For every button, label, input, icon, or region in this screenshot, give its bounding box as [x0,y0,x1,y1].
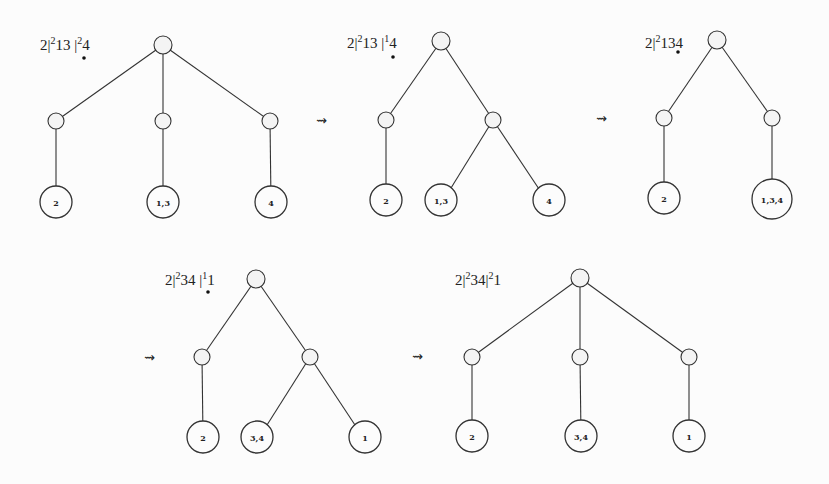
leaf-label: 1,3 [434,196,448,206]
tree-diagram: 2 1,3 4 2|213 |24 ⇝ 2 1,3 [0,0,829,484]
leaf-node: 1 [673,420,705,452]
inner-node [681,349,697,365]
inner-node [302,349,318,365]
tree-label: 2|2134 [645,33,684,51]
root-node [708,31,726,49]
root-node [154,36,172,54]
leaf-node: 1,3,4 [752,179,792,219]
tree-label: 2|213 |14 [347,33,397,51]
inner-node [485,112,501,128]
leaf-node: 1,3 [147,186,179,218]
inner-node [764,110,780,126]
diagram-canvas: 2 1,3 4 2|213 |24 ⇝ 2 1,3 [0,0,829,484]
tree-2: 2 1,3 4 2|213 |14 [347,32,565,216]
inner-node [194,349,210,365]
inner-node [572,349,588,365]
tree-4: 2 3,4 1 2|234 |11 [165,270,381,453]
leaf-label: 4 [546,196,552,206]
leaf-label: 1 [362,433,368,443]
leaf-label: 3,4 [250,433,264,443]
leaf-node: 2 [40,186,72,218]
leaf-node: 2 [187,421,219,453]
leaf-node: 1,3 [425,184,457,216]
leaf-label: 2 [53,198,59,208]
leaf-label: 4 [268,198,274,208]
marker-dot [206,290,210,294]
leaf-node: 3,4 [241,421,273,453]
leaf-label: 1,3,4 [761,195,784,205]
leaf-node: 2 [370,184,402,216]
leaf-node: 2 [456,420,488,452]
marker-dot [82,56,86,60]
root-node [247,270,265,288]
transition-arrow: ⇝ [412,349,423,364]
transition-arrow: ⇝ [316,113,327,128]
transition-arrow: ⇝ [144,350,155,365]
leaf-label: 2 [469,432,475,442]
leaf-label: 1,3 [156,198,170,208]
transition-arrow: ⇝ [596,111,607,126]
root-node [571,269,589,287]
leaf-label: 2 [661,194,667,204]
marker-dot [676,50,680,54]
leaf-node: 3,4 [565,420,597,452]
root-node [432,32,450,50]
inner-node [155,113,171,129]
inner-node [378,112,394,128]
inner-node [656,110,672,126]
tree-3: 2 1,3,4 2|2134 [645,31,792,219]
tree-1: 2 1,3 4 2|213 |24 [40,35,287,218]
leaf-label: 2 [383,196,389,206]
inner-node [262,113,278,129]
tree-label: 2|234 |11 [165,270,215,288]
leaf-label: 1 [686,432,692,442]
leaf-node: 4 [533,184,565,216]
tree-label: 2|234|21 [455,270,501,288]
inner-node [464,349,480,365]
inner-node [48,113,64,129]
marker-dot [391,55,395,59]
leaf-node: 1 [349,421,381,453]
tree-label: 2|213 |24 [40,35,90,53]
leaf-label: 3,4 [574,432,588,442]
tree-5: 2 3,4 1 2|234|21 [455,269,705,452]
leaf-label: 2 [200,433,206,443]
leaf-node: 2 [648,182,680,214]
leaf-node: 4 [255,186,287,218]
